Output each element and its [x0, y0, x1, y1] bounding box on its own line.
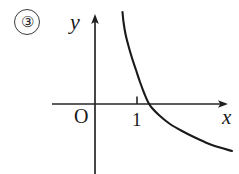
function-curve: [123, 12, 233, 151]
item-number-badge: ③: [14, 9, 40, 35]
figure-canvas: ③ y x O 1: [0, 0, 239, 174]
x-axis-label: x: [222, 107, 231, 128]
origin-label: O: [74, 106, 88, 126]
x-tick-label-one: 1: [132, 110, 142, 129]
y-axis: [91, 14, 99, 174]
y-axis-label: y: [70, 11, 80, 33]
